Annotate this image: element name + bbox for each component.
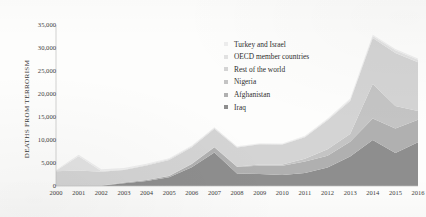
legend-item-oecd-member-countries[interactable]: OECD member countries — [224, 51, 309, 64]
chart-legend: Turkey and IsraelOECD member countriesRe… — [224, 38, 309, 114]
x-axis-ticks: 2000200120022003200420052006200720082009… — [0, 0, 426, 217]
legend-item-nigeria[interactable]: Nigeria — [224, 76, 309, 89]
legend-swatch-icon — [224, 42, 228, 46]
legend-item-label: Turkey and Israel — [234, 41, 286, 48]
stacked-area-chart: DEATHS FROM TERRORISM 35,00030,00025,000… — [0, 0, 426, 217]
legend-item-label: Nigeria — [234, 78, 256, 85]
legend-swatch-icon — [224, 67, 228, 71]
legend-item-label: Afghanistan — [234, 91, 270, 98]
legend-swatch-icon — [224, 80, 228, 84]
legend-item-label: Rest of the world — [234, 66, 285, 73]
legend-swatch-icon — [224, 55, 228, 59]
legend-swatch-icon — [224, 105, 228, 109]
legend-item-label: Iraq — [234, 104, 246, 111]
legend-item-label: OECD member countries — [234, 53, 309, 60]
legend-item-afghanistan[interactable]: Afghanistan — [224, 88, 309, 101]
legend-item-turkey-and-israel[interactable]: Turkey and Israel — [224, 38, 309, 51]
x-tick-label: 2016 — [405, 189, 426, 196]
legend-item-iraq[interactable]: Iraq — [224, 101, 309, 114]
legend-swatch-icon — [224, 93, 228, 97]
figure-page: DEATHS FROM TERRORISM 35,00030,00025,000… — [0, 0, 426, 217]
legend-item-rest-of-the-world[interactable]: Rest of the world — [224, 63, 309, 76]
